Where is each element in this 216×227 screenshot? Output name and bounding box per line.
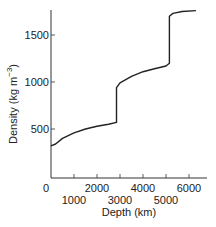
density-depth-chart: 0200040006000100030005000 50010001500 De… [0, 0, 216, 227]
x-ticks: 0200040006000100030005000 [43, 174, 201, 206]
y-tick-label: 500 [31, 123, 49, 135]
x-tick-label: 1000 [62, 194, 86, 206]
x-tick-label: 3000 [108, 194, 132, 206]
y-ticks: 50010001500 [25, 29, 55, 135]
y-axis-title: Density (kg m−3) [5, 64, 19, 144]
svg-text:Density (kg m−3): Density (kg m−3) [5, 64, 19, 144]
x-tick-label: 4000 [131, 182, 155, 194]
x-tick-label: 6000 [177, 182, 201, 194]
y-tick-label: 1500 [25, 29, 49, 41]
x-tick-label: 2000 [85, 182, 109, 194]
x-tick-label: 0 [43, 182, 49, 194]
y-tick-label: 1000 [25, 76, 49, 88]
x-axis-title: Depth (km) [102, 206, 156, 218]
density-curve [51, 11, 196, 146]
x-tick-label: 5000 [154, 194, 178, 206]
